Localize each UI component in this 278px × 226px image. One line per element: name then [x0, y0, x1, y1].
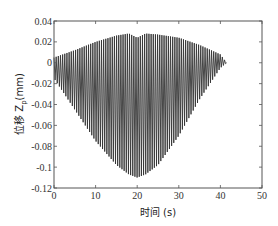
y-tick-label: -0.06: [31, 120, 52, 131]
x-tick-label: 50: [257, 190, 267, 201]
x-tick-labels: 01020304050: [52, 190, 268, 201]
x-tick-label: 10: [91, 190, 101, 201]
y-axis-label: 位移 Zp(mm): [13, 73, 28, 135]
y-tick-label: -0.02: [31, 78, 52, 89]
y-axis-label-main: 位移 Z: [13, 105, 25, 135]
plot-area: [54, 34, 227, 178]
x-tick-label: 30: [174, 190, 184, 201]
x-axis-label: 时间 (s): [140, 206, 176, 218]
y-tick-label: 0: [47, 57, 52, 68]
signal-line: [54, 34, 227, 178]
y-tick-label: -0.1: [36, 162, 52, 173]
y-tick-label: -0.08: [31, 141, 52, 152]
x-tick-label: 20: [132, 190, 142, 201]
chart: 01020304050 0.040.020-0.02-0.04-0.06-0.0…: [0, 0, 278, 226]
y-tick-label: 0.02: [35, 36, 53, 47]
y-tick-label: -0.12: [31, 183, 52, 194]
y-axis-label-unit: (mm): [14, 73, 25, 100]
x-tick-label: 0: [52, 190, 57, 201]
x-tick-label: 40: [215, 190, 225, 201]
y-tick-label: 0.04: [35, 16, 53, 27]
y-tick-label: -0.04: [31, 99, 52, 110]
y-tick-labels: 0.040.020-0.02-0.04-0.06-0.08-0.1-0.12: [31, 16, 52, 194]
